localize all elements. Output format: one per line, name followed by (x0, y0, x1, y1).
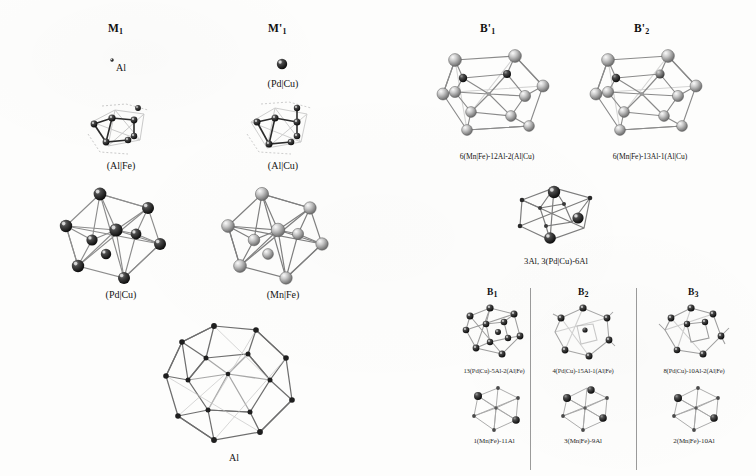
icosahedron-pd-cu-glyph (48, 182, 190, 292)
figure-canvas: M1 Al (0, 0, 756, 476)
icosahedron-b2-bottom-glyph (555, 382, 619, 438)
dodecahedron-b1-prime-glyph (433, 42, 557, 148)
label-al-fe: (Al|Fe) (107, 160, 136, 171)
cluster-al-fe-glyph (82, 100, 162, 158)
cluster-b3-top-glyph (655, 300, 735, 364)
header-m1-text: M (108, 22, 119, 34)
caption-b3-top: 8(Pd|Cu)-10Al-2(Al|Fe) (663, 367, 724, 374)
header-m1: M1 (108, 22, 123, 34)
cluster-b1-top-glyph (456, 300, 532, 364)
caption-b1-top: 13(Pd|Cu)-5Al-2(Al|Fe) (463, 367, 524, 374)
header-b1-prime: B'1 (480, 22, 495, 34)
header-b1-text: B (487, 287, 494, 297)
header-b3-sub: 3 (695, 290, 699, 299)
header-b2-sub: 2 (585, 290, 589, 299)
caption-b2-bottom: 3(Mn|Fe)-9Al (564, 437, 602, 445)
cluster-al-cu-glyph (243, 100, 323, 158)
label-mn-fe: (Mn|Fe) (267, 289, 300, 300)
large-polyhedron-al-glyph (152, 318, 316, 450)
caption-b2-top: 4(Pd|Cu)-15Al-1(Al|Fe) (552, 367, 613, 374)
label-al-cu: (Al|Cu) (268, 160, 298, 171)
header-m1-sub: 1 (119, 27, 123, 36)
icosahedron-mn-fe-glyph (210, 182, 352, 292)
label-pd-cu: (Pd|Cu) (106, 289, 137, 300)
label-pd-cu-single: (Pd|Cu) (268, 78, 299, 89)
icosahedron-b3-bottom-glyph (666, 382, 730, 438)
caption-b1-prime: 6(Mn|Fe)-12Al-2(Al|Cu) (460, 152, 535, 161)
header-b2-prime-sub: 2 (645, 27, 649, 36)
header-b2-prime-text: B' (634, 22, 645, 34)
label-al-m1: Al (116, 62, 126, 73)
header-b2-text: B (578, 287, 585, 297)
header-m1-prime-text: M' (268, 22, 282, 34)
label-al-large: Al (229, 452, 239, 463)
panel-divider-2 (636, 288, 637, 470)
single-atom-pd-cu-glyph (272, 54, 294, 74)
caption-b2-prime: 6(Mn|Fe)-13Al-1(Al|Cu) (613, 152, 688, 161)
caption-b3-bottom: 2(Mn|Fe)-10Al (673, 437, 714, 445)
header-b3-text: B (688, 287, 695, 297)
caption-center-cluster: 3Al, 3(Pd|Cu)-6Al (524, 256, 588, 266)
cluster-b2-top-glyph (547, 300, 623, 364)
caption-b1-bottom: 1(Mn|Fe)-11Al (473, 437, 514, 445)
dodecahedron-b2-prime-glyph (586, 42, 710, 148)
header-b1-prime-text: B' (480, 22, 491, 34)
header-b1-prime-sub: 1 (491, 27, 495, 36)
icosahedron-b1-bottom-glyph (466, 382, 530, 438)
cluster-3al-3pdcu-6al-glyph (506, 182, 608, 250)
header-b2: B2 (578, 287, 589, 297)
header-m1-prime: M'1 (268, 22, 287, 34)
header-b1-sub: 1 (494, 290, 498, 299)
header-b2-prime: B'2 (634, 22, 649, 34)
header-b3: B3 (688, 287, 699, 297)
header-m1-prime-sub: 1 (282, 27, 286, 36)
header-b1: B1 (487, 287, 498, 297)
